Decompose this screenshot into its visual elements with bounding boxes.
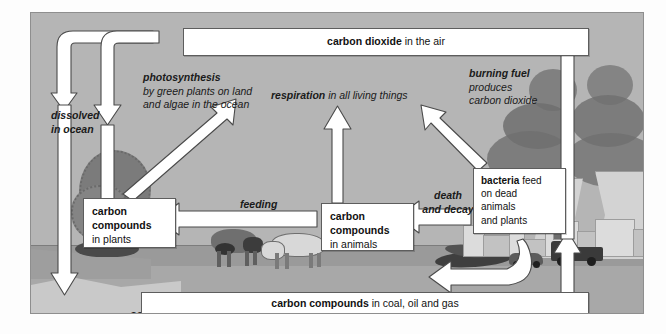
caption-photosynthesis: photosynthesis by green plants on land a… — [143, 71, 258, 112]
caption-burning-fuel-bold: burning fuel — [469, 67, 530, 79]
caption-photosynthesis-bold: photosynthesis — [143, 71, 221, 83]
box-bacteria-rest-3: animals — [481, 200, 558, 213]
caption-feeding-text: feeding — [240, 198, 277, 210]
carbon-cycle-panel: carbon dioxide in the air carbon compoun… — [30, 12, 644, 314]
box-animals-bold-2: compounds — [330, 224, 390, 236]
box-carbon-compounds-fossil[interactable]: carbon compounds in coal, oil and gas — [141, 292, 589, 314]
caption-death-and-decay: death and decay — [417, 189, 479, 216]
box-carbon-compounds-animals[interactable]: carbon compounds in animals — [321, 203, 414, 251]
box-bacteria-rest-2: on dead — [481, 187, 558, 200]
box-plants-rest: in plants — [92, 233, 167, 247]
caption-burning-fuel-rest-1: produces — [469, 81, 512, 93]
caption-respiration: respiration in all living things — [271, 89, 481, 103]
box-fossil-bold: carbon compounds — [271, 297, 368, 309]
box-fossil-rest: in coal, oil and gas — [369, 297, 459, 309]
box-bacteria-rest-4: and plants — [481, 214, 558, 227]
box-animals-bold-1: carbon — [330, 210, 365, 222]
factory-building-icon-2 — [483, 235, 511, 257]
box-plants-bold-1: carbon — [92, 205, 127, 217]
caption-respiration-rest: in all living things — [325, 89, 407, 101]
caption-dissolved-in-ocean: dissolved in ocean — [51, 109, 123, 136]
box-bacteria-rest-1: feed — [519, 175, 541, 186]
truck-wheel-icon-2 — [587, 257, 596, 266]
caption-feeding: feeding — [240, 198, 277, 212]
diagram-stage: carbon dioxide in the air carbon compoun… — [0, 0, 666, 334]
truck-wheel-icon-1 — [557, 257, 566, 266]
factory-building-icon-8 — [633, 229, 644, 257]
caption-death-line-2: and decay — [422, 203, 473, 215]
box-bacteria-bold: bacteria — [481, 175, 519, 186]
caption-dissolved-line-1: dissolved — [51, 109, 99, 121]
caption-photosynthesis-rest: by green plants on land and algae in the… — [143, 85, 252, 111]
box-co2-rest: in the air — [402, 35, 445, 47]
caption-dissolved-line-2: in ocean — [51, 123, 94, 135]
smoke-plume-icon-6 — [587, 65, 633, 105]
caption-burning-fuel: burning fuel produces carbon dioxide — [469, 67, 579, 108]
cow-light-icon — [261, 233, 327, 271]
cow-dark-icon — [209, 229, 267, 269]
car-wheel-icon-2 — [533, 261, 540, 268]
caption-respiration-bold: respiration — [271, 89, 325, 101]
box-plants-bold-2: compounds — [92, 219, 152, 231]
caption-burning-fuel-rest-2: carbon dioxide — [469, 94, 537, 106]
box-carbon-dioxide-air[interactable]: carbon dioxide in the air — [183, 28, 589, 56]
box-carbon-compounds-plants[interactable]: carbon compounds in plants — [83, 198, 176, 248]
truck-cab-icon — [551, 241, 569, 249]
caption-death-line-1: death — [434, 189, 462, 201]
car-wheel-icon-1 — [513, 261, 520, 268]
box-co2-bold: carbon dioxide — [327, 35, 402, 47]
box-animals-rest: in animals — [330, 238, 405, 252]
box-bacteria-feed[interactable]: bacteria feed on dead animals and plants — [473, 168, 566, 234]
